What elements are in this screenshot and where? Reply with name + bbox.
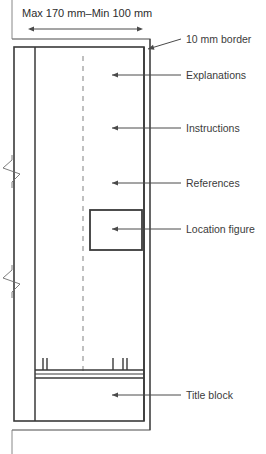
leader-instructions [112, 126, 181, 131]
callout-label-location-figure: Location figure [186, 223, 255, 235]
outer-border-rect [12, 0, 150, 454]
leader-references [112, 181, 181, 186]
dimension-label: Max 170 mm–Min 100 mm [22, 7, 152, 19]
title-block-ticks [43, 358, 127, 370]
callout-label-title-block: Title block [186, 389, 234, 401]
break-symbol-upper [3, 155, 20, 188]
callout-label-explanations: Explanations [186, 69, 246, 81]
leader-title-block [112, 393, 181, 398]
dimension-arrow [28, 26, 143, 31]
leader-arrowhead [112, 227, 118, 232]
inner-frame-rect [14, 47, 144, 421]
callout-label-instructions: Instructions [186, 122, 240, 134]
leader-arrowhead [112, 181, 118, 186]
leader-arrowhead [148, 45, 154, 50]
leader-arrowhead [112, 126, 118, 131]
title-block-group [35, 358, 144, 378]
leader-location-figure [112, 227, 181, 232]
callout-leaders [112, 39, 181, 398]
leader-arrowhead [112, 393, 118, 398]
callout-label-border: 10 mm border [186, 33, 252, 45]
break-symbol-lower [3, 265, 20, 298]
sheet-layout-figure: Max 170 mm–Min 100 mm [0, 0, 266, 454]
leader-explanations [112, 73, 181, 78]
leader-arrowhead [112, 73, 118, 78]
leader-border [148, 39, 181, 50]
border-double-line-right [144, 39, 150, 430]
callout-label-references: References [186, 177, 240, 189]
